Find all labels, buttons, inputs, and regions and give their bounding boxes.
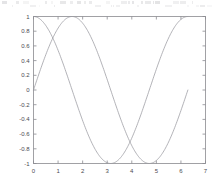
y-tick-label: -0.6 [0, 131, 30, 137]
figure-canvas: -1-0.8-0.6-0.4-0.200.20.40.60.81 0123456… [0, 0, 216, 181]
y-tick-label: 0 [0, 87, 30, 93]
curve-sinx [34, 17, 188, 164]
y-tick-label: -0.4 [0, 116, 30, 122]
y-tick-label: 0.8 [0, 28, 30, 34]
data-curves [34, 17, 188, 164]
x-tick-label: 5 [146, 168, 166, 174]
y-tick-label: 0.4 [0, 58, 30, 64]
x-tick-label: 4 [122, 168, 142, 174]
plot-svg [0, 0, 216, 181]
axis-ticks [34, 17, 206, 164]
x-tick-label: 1 [48, 168, 68, 174]
y-tick-label: 1 [0, 14, 30, 20]
x-tick-label: 6 [171, 168, 191, 174]
y-tick-label: -1 [0, 161, 30, 167]
y-tick-label: 0.2 [0, 72, 30, 78]
y-tick-label: 0.6 [0, 43, 30, 49]
y-tick-label: -0.8 [0, 146, 30, 152]
x-tick-label: 0 [24, 168, 44, 174]
x-tick-label: 7 [196, 168, 216, 174]
axes-box [34, 17, 206, 164]
y-tick-label: -0.2 [0, 102, 30, 108]
x-tick-label: 2 [73, 168, 93, 174]
x-tick-label: 3 [97, 168, 117, 174]
plot-area: -1-0.8-0.6-0.4-0.200.20.40.60.81 0123456… [0, 0, 216, 181]
